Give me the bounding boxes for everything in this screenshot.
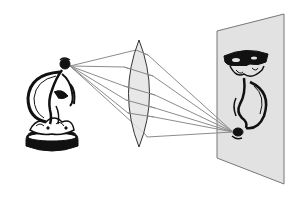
ray-6 (70, 66, 233, 137)
ray-1 (70, 50, 233, 132)
biconvex-lens (129, 40, 150, 147)
projection-screen (217, 14, 284, 184)
lens-optics-diagram (0, 0, 303, 198)
statue-object (26, 58, 78, 151)
